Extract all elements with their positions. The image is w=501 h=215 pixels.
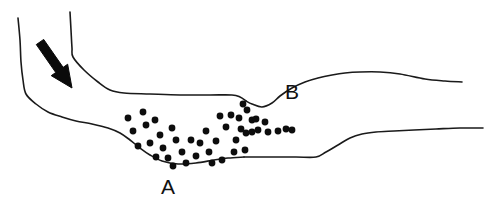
point-feature-scatter-group bbox=[125, 101, 296, 170]
boundary-lines-group bbox=[18, 12, 483, 164]
point-feature-dot bbox=[193, 153, 200, 160]
flow-direction-arrow bbox=[36, 39, 72, 88]
point-feature-dot bbox=[165, 155, 172, 162]
point-feature-dot bbox=[160, 145, 167, 152]
point-feature-dot bbox=[125, 115, 132, 122]
point-feature-dot bbox=[219, 157, 226, 164]
point-feature-dot bbox=[255, 127, 262, 134]
point-feature-dot bbox=[262, 119, 269, 126]
point-feature-dot bbox=[265, 129, 272, 136]
point-feature-dot bbox=[209, 160, 216, 167]
point-feature-dot bbox=[253, 116, 260, 123]
point-feature-dot bbox=[188, 137, 195, 144]
lower-bank-left-line bbox=[18, 18, 244, 164]
point-feature-dot bbox=[153, 154, 160, 161]
upper-bank-right-line bbox=[246, 72, 462, 107]
point-feature-dot bbox=[243, 130, 250, 137]
point-feature-dot bbox=[169, 125, 176, 132]
point-feature-dot bbox=[231, 149, 238, 156]
point-feature-dot bbox=[152, 117, 159, 124]
point-feature-dot bbox=[240, 101, 247, 108]
point-feature-dot bbox=[179, 149, 186, 156]
flow-direction-arrow-group bbox=[36, 39, 72, 88]
point-feature-dot bbox=[275, 128, 282, 135]
diagram-svg: AB bbox=[0, 0, 501, 215]
upper-bank-line bbox=[70, 12, 246, 101]
point-feature-dot bbox=[213, 138, 220, 145]
region-label-a: A bbox=[161, 175, 175, 198]
point-feature-dot bbox=[233, 137, 240, 144]
point-feature-dot bbox=[242, 147, 249, 154]
point-feature-dot bbox=[143, 122, 150, 129]
point-feature-dot bbox=[289, 127, 296, 134]
point-feature-dot bbox=[217, 113, 224, 120]
point-feature-dot bbox=[140, 109, 147, 116]
point-feature-dot bbox=[228, 112, 235, 119]
point-feature-dot bbox=[183, 160, 190, 167]
point-feature-dot bbox=[203, 128, 210, 135]
point-feature-dot bbox=[223, 124, 230, 131]
diagram-canvas: AB bbox=[0, 0, 501, 215]
point-feature-dot bbox=[173, 137, 180, 144]
point-feature-dot bbox=[197, 140, 204, 147]
point-feature-dot bbox=[130, 128, 137, 135]
point-feature-dot bbox=[147, 140, 154, 147]
point-feature-dot bbox=[236, 115, 243, 122]
point-feature-dot bbox=[206, 149, 213, 156]
point-feature-dot bbox=[283, 126, 290, 133]
point-feature-dot bbox=[157, 132, 164, 139]
region-label-b: B bbox=[285, 80, 299, 103]
point-feature-dot bbox=[170, 163, 177, 170]
point-feature-dot bbox=[244, 107, 251, 114]
point-feature-dot bbox=[249, 129, 256, 136]
point-feature-dot bbox=[135, 143, 142, 150]
